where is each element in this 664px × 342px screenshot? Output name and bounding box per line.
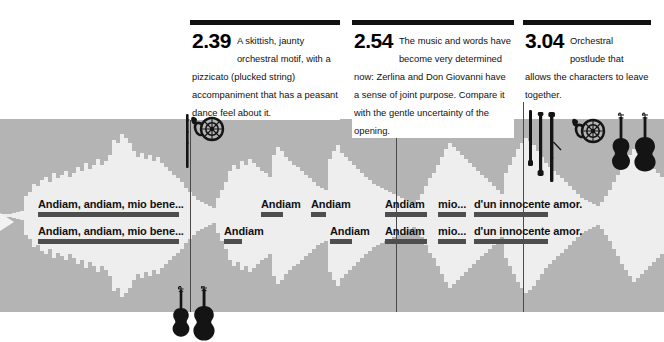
bassoon-icon <box>548 112 561 182</box>
lyric-upper-6: d'un innocente amor. <box>474 198 582 210</box>
flute-icon <box>186 114 189 168</box>
callout-time: 2.39 <box>192 30 231 51</box>
figure-root: 2.39 A skittish, jaunty orchestral motif… <box>0 0 664 342</box>
instrument-group-top-left <box>183 112 227 170</box>
lyric-upper-bar-6 <box>474 212 548 217</box>
lyric-upper-3: Andiam <box>311 198 351 210</box>
lyric-upper-bar-2 <box>261 212 283 217</box>
french-horn-right <box>565 114 607 154</box>
lyric-lower-bar-5 <box>438 239 466 244</box>
lyric-lower-bar-4 <box>385 239 427 244</box>
lyric-lower-bar-3 <box>330 239 352 244</box>
lyric-lower-4: Andiam <box>385 225 425 237</box>
callout-time: 2.54 <box>354 30 393 51</box>
clarinet-icon <box>528 110 533 166</box>
callout-time: 3.04 <box>525 30 564 51</box>
callout-2-39[interactable]: 2.39 A skittish, jaunty orchestral motif… <box>190 20 340 120</box>
lyric-lower-1: Andiam, andiam, mio bene... <box>38 225 184 237</box>
french-horn-icon <box>572 119 604 142</box>
violin-icon <box>612 113 630 170</box>
callout-3-04[interactable]: 3.04 Orchestral postlude that allows the… <box>523 20 651 102</box>
playhead-arrow-icon <box>0 213 14 231</box>
lyric-upper-1: Andiam, andiam, mio bene... <box>38 198 184 210</box>
lyric-upper-bar-1 <box>38 212 179 217</box>
lyric-lower-5: mio... <box>438 225 466 237</box>
lyric-upper-bar-5 <box>438 212 466 217</box>
cello-icon <box>193 286 214 341</box>
oboe-icon <box>538 112 544 176</box>
lyric-lower-bar-6 <box>474 239 548 244</box>
lyric-lower-bar-2 <box>224 239 242 244</box>
cello-icon <box>634 113 655 171</box>
instrument-group-strings-bottom <box>168 286 224 342</box>
lyric-lower-6: d'un innocente amor. <box>474 225 582 237</box>
instrument-group-woodwinds <box>527 110 563 182</box>
lyric-lower-bar-1 <box>38 239 179 244</box>
lyric-lower-2: Andiam <box>224 225 264 237</box>
lyric-upper-2: Andiam <box>261 198 301 210</box>
callout-2-54[interactable]: 2.54 The music and words have become ver… <box>352 20 514 138</box>
lyric-upper-bar-3 <box>311 212 326 217</box>
french-horn-icon <box>191 117 223 140</box>
violin-icon <box>173 287 190 337</box>
lyric-lower-3: Andiam <box>330 225 370 237</box>
lyric-upper-4: Andiam <box>385 198 425 210</box>
instrument-group-strings-right <box>609 112 661 172</box>
lyric-upper-5: mio... <box>438 198 466 210</box>
lyric-upper-bar-4 <box>385 212 427 217</box>
